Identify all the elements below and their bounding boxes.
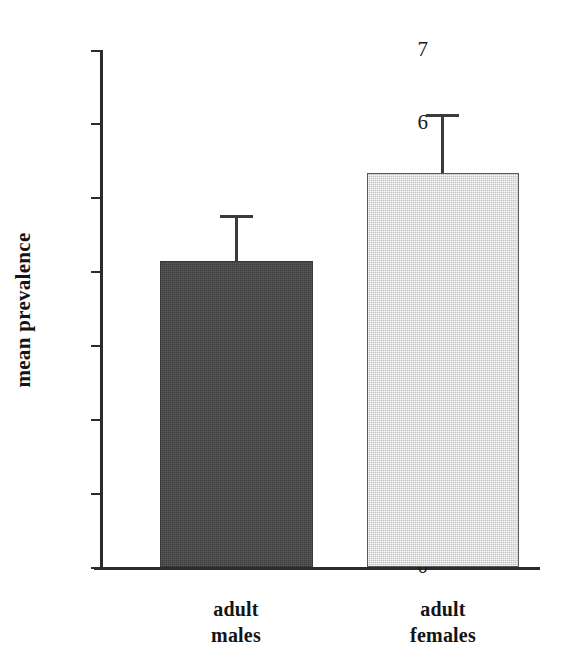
x-category-label-adult-females: adult females — [343, 597, 543, 648]
y-tick-4 — [91, 271, 101, 273]
y-tick-7 — [91, 50, 101, 52]
x-category-label-adult-males-line1: adult — [136, 597, 336, 623]
y-tick-6 — [91, 123, 101, 125]
y-axis-line — [100, 50, 103, 569]
x-axis-line — [94, 567, 540, 570]
y-tick-2 — [91, 419, 101, 421]
x-category-label-adult-females-line2: females — [343, 623, 543, 649]
bar-adult-males — [160, 261, 313, 567]
bar-chart-figure: mean prevalence 0 1 2 3 4 5 6 7 adult — [0, 0, 574, 672]
y-tick-5 — [91, 197, 101, 199]
error-bar-stem-adult-females — [441, 115, 444, 173]
x-category-label-adult-females-line1: adult — [343, 597, 543, 623]
error-bar-cap-adult-males — [220, 215, 253, 218]
y-tick-3 — [91, 345, 101, 347]
y-tick-label-7: 7 — [388, 39, 428, 60]
error-bar-cap-adult-females — [426, 114, 459, 117]
y-axis-title: mean prevalence — [0, 0, 46, 672]
y-tick-label-6: 6 — [388, 112, 428, 133]
y-axis-title-text: mean prevalence — [11, 232, 36, 387]
plot-area: 0 1 2 3 4 5 6 7 — [100, 50, 540, 569]
bar-adult-females — [367, 173, 519, 567]
y-tick-0 — [91, 567, 101, 569]
y-tick-1 — [91, 493, 101, 495]
x-category-label-adult-males: adult males — [136, 597, 336, 648]
error-bar-stem-adult-males — [235, 216, 238, 261]
x-category-label-adult-males-line2: males — [136, 623, 336, 649]
